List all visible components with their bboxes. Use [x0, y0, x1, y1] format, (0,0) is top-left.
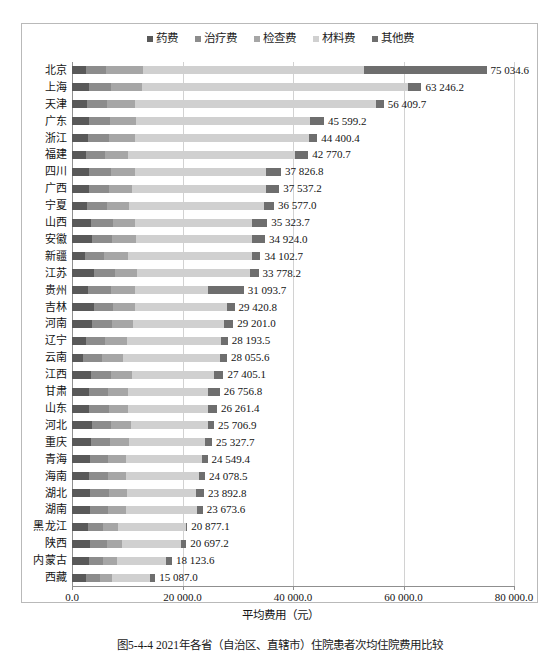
stacked-bar[interactable] — [72, 388, 220, 396]
x-axis-title: 平均费用（元） — [22, 610, 539, 622]
bar-row[interactable]: 上海63 246.2 — [72, 79, 514, 96]
bar-row[interactable]: 内蒙古18 123.6 — [72, 552, 514, 569]
bar-row[interactable]: 浙江44 400.4 — [72, 130, 514, 147]
category-label: 山东 — [45, 403, 67, 414]
bar-segment — [252, 235, 265, 243]
category-label: 湖南 — [45, 504, 67, 515]
bar-row[interactable]: 江西27 405.1 — [72, 366, 514, 383]
stacked-bar[interactable] — [72, 83, 421, 91]
bar-row[interactable]: 辽宁28 193.5 — [72, 332, 514, 349]
bar-row[interactable]: 福建42 770.7 — [72, 147, 514, 164]
stacked-bar[interactable] — [72, 557, 172, 565]
bar-row[interactable]: 河南29 201.0 — [72, 316, 514, 333]
bar-row[interactable]: 广东45 599.2 — [72, 113, 514, 130]
stacked-bar[interactable] — [72, 506, 203, 514]
x-tick-label: 80 000.0 — [495, 592, 534, 603]
legend-item[interactable]: 治疗费 — [195, 33, 237, 45]
stacked-bar[interactable] — [72, 235, 265, 243]
stacked-bar[interactable] — [72, 574, 155, 582]
bar-row[interactable]: 青海24 549.4 — [72, 451, 514, 468]
bar-segment — [181, 540, 187, 548]
bar-segment — [109, 405, 128, 413]
bar-segment — [72, 574, 86, 582]
legend-item[interactable]: 材料费 — [313, 33, 355, 45]
bar-row[interactable]: 甘肃26 756.8 — [72, 383, 514, 400]
stacked-bar[interactable] — [72, 202, 274, 210]
stacked-bar[interactable] — [72, 371, 223, 379]
bar-segment — [103, 523, 118, 531]
bar-row[interactable]: 山东26 261.4 — [72, 400, 514, 417]
bar-row[interactable]: 山西35 323.7 — [72, 214, 514, 231]
bar-segment — [113, 219, 135, 227]
bar-value-label: 24 549.4 — [212, 454, 251, 465]
bar-row[interactable]: 海南24 078.5 — [72, 468, 514, 485]
stacked-bar[interactable] — [72, 185, 279, 193]
stacked-bar[interactable] — [72, 269, 259, 277]
bar-segment — [88, 523, 103, 531]
stacked-bar[interactable] — [72, 405, 217, 413]
stacked-bar[interactable] — [72, 421, 214, 429]
bar-segment — [131, 421, 208, 429]
legend-item[interactable]: 药费 — [147, 33, 178, 45]
bar-segment — [92, 235, 112, 243]
stacked-bar[interactable] — [72, 455, 208, 463]
bar-row[interactable]: 云南28 055.6 — [72, 349, 514, 366]
bar-row[interactable]: 吉林29 420.8 — [72, 299, 514, 316]
bar-row[interactable]: 贵州31 093.7 — [72, 282, 514, 299]
stacked-bar[interactable] — [72, 286, 244, 294]
bar-segment — [88, 286, 111, 294]
bar-segment — [107, 100, 135, 108]
stacked-bar[interactable] — [72, 438, 212, 446]
bar-row[interactable]: 黑龙江20 877.1 — [72, 518, 514, 535]
stacked-bar[interactable] — [72, 303, 235, 311]
legend-item[interactable]: 其他费 — [372, 33, 414, 45]
bar-row[interactable]: 河北25 706.9 — [72, 417, 514, 434]
stacked-bar[interactable] — [72, 151, 308, 159]
bar-row[interactable]: 湖北23 892.8 — [72, 485, 514, 502]
bar-segment — [72, 100, 87, 108]
bar-segment — [309, 134, 317, 142]
bar-row[interactable]: 四川37 826.8 — [72, 163, 514, 180]
stacked-bar[interactable] — [72, 66, 487, 74]
bar-row[interactable]: 北京75 034.6 — [72, 62, 514, 79]
bar-row[interactable]: 宁夏36 577.0 — [72, 197, 514, 214]
stacked-bar[interactable] — [72, 540, 186, 548]
bar-row[interactable]: 安徽34 924.0 — [72, 231, 514, 248]
bar-segment — [89, 405, 109, 413]
legend-label: 检查费 — [263, 33, 296, 45]
bar-segment — [94, 269, 114, 277]
stacked-bar[interactable] — [72, 134, 317, 142]
bar-segment — [113, 303, 135, 311]
stacked-bar[interactable] — [72, 489, 204, 497]
bar-row[interactable]: 广西37 537.2 — [72, 180, 514, 197]
stacked-bar[interactable] — [72, 100, 384, 108]
bar-segment — [252, 252, 261, 260]
bar-segment — [90, 540, 107, 548]
bar-row[interactable]: 新疆34 102.7 — [72, 248, 514, 265]
stacked-bar[interactable] — [72, 168, 281, 176]
bar-row[interactable]: 重庆25 327.7 — [72, 434, 514, 451]
stacked-bar[interactable] — [72, 337, 228, 345]
bar-segment — [221, 337, 228, 345]
stacked-bar[interactable] — [72, 219, 267, 227]
bar-value-label: 20 877.1 — [191, 521, 230, 532]
category-label: 浙江 — [45, 133, 67, 144]
bar-row[interactable]: 湖南23 673.6 — [72, 501, 514, 518]
bar-row[interactable]: 西藏15 087.0 — [72, 569, 514, 586]
stacked-bar[interactable] — [72, 472, 205, 480]
stacked-bar[interactable] — [72, 354, 227, 362]
category-label: 福建 — [45, 149, 67, 160]
stacked-bar[interactable] — [72, 320, 233, 328]
bar-segment — [86, 574, 100, 582]
stacked-bar[interactable] — [72, 523, 187, 531]
legend-swatch-icon — [254, 36, 260, 42]
legend-item[interactable]: 检查费 — [254, 33, 296, 45]
stacked-bar[interactable] — [72, 252, 260, 260]
bar-row[interactable]: 江苏33 778.2 — [72, 265, 514, 282]
stacked-bar[interactable] — [72, 117, 324, 125]
bar-segment — [208, 388, 219, 396]
bar-row[interactable]: 天津56 409.7 — [72, 96, 514, 113]
bar-row[interactable]: 陕西20 697.2 — [72, 535, 514, 552]
bar-segment — [72, 354, 83, 362]
category-label: 天津 — [45, 99, 67, 110]
